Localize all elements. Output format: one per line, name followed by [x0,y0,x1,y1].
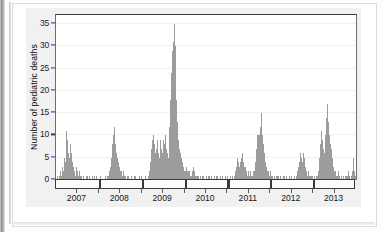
plot-area-wrapper [55,14,355,179]
x-tick-label: 2007 [67,193,86,203]
season-separator [142,180,144,188]
bar-series [56,15,356,180]
y-tick-label: 20 [40,85,49,95]
season-separator [270,180,272,188]
plot-area [55,14,357,180]
figure-page: Number of pediatric deaths 0510152025303… [0,0,382,232]
y-tick-label: 10 [40,129,49,139]
season-separator [227,180,229,188]
season-separator [99,180,101,188]
x-axis-tick-labels: 2007200820092010201120122013 [55,189,355,205]
y-axis: 05101520253035 [0,14,55,180]
season-separator [313,180,315,188]
y-tick-label: 25 [40,63,49,73]
figure-card-shadow [13,222,375,225]
x-tick-label: 2011 [239,193,257,203]
bar [355,176,356,180]
x-tick-label: 2013 [324,193,343,203]
y-tick-label: 0 [44,174,49,184]
y-tick-label: 15 [40,107,49,117]
y-tick-label: 5 [44,152,49,162]
x-tick-label: 2008 [110,193,129,203]
x-tick-label: 2009 [153,193,172,203]
y-tick-label: 30 [40,40,49,50]
season-separator [185,180,187,188]
x-axis-season-band [55,179,355,189]
x-tick-label: 2012 [281,193,300,203]
x-tick-label: 2010 [195,193,214,203]
y-tick-label: 35 [40,18,49,28]
